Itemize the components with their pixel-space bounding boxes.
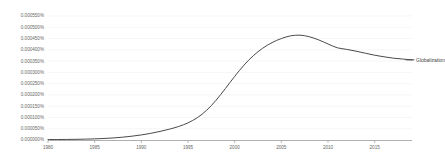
y-axis-tick-label: 0.000500% [0, 25, 44, 30]
x-axis-tick-label: 2005 [266, 145, 296, 150]
gridlines [48, 16, 412, 129]
y-axis-tick-label: 0.000250% [0, 81, 44, 86]
y-axis-tick-label: 0.000200% [0, 92, 44, 97]
x-axis-tick-label: 2015 [360, 145, 390, 150]
y-axis-tick-label: 0.000100% [0, 115, 44, 120]
y-axis-tick-label: 0.000300% [0, 70, 44, 75]
series-line-globalization [48, 35, 412, 139]
y-axis-tick-label: 0.000050% [0, 126, 44, 131]
y-axis-tick-label: 0.000150% [0, 104, 44, 109]
y-axis-tick-label: 0.000400% [0, 47, 44, 52]
y-axis-tick-label: 0.000350% [0, 59, 44, 64]
x-axis-tick-label: 2010 [313, 145, 343, 150]
y-axis-tick-label: 0.000450% [0, 36, 44, 41]
x-axis-tick-label: 1990 [126, 145, 156, 150]
x-axis-tick-label: 1980 [33, 145, 63, 150]
y-axis-tick-label: 0.000550% [0, 13, 44, 18]
x-axis-tick-label: 2000 [220, 145, 250, 150]
series-label-globalization[interactable]: Globalization [416, 57, 445, 63]
y-axis-tick-label: 0.000000% [0, 137, 44, 142]
x-axis-tick-label: 1995 [173, 145, 203, 150]
x-axis-tick-label: 1985 [80, 145, 110, 150]
